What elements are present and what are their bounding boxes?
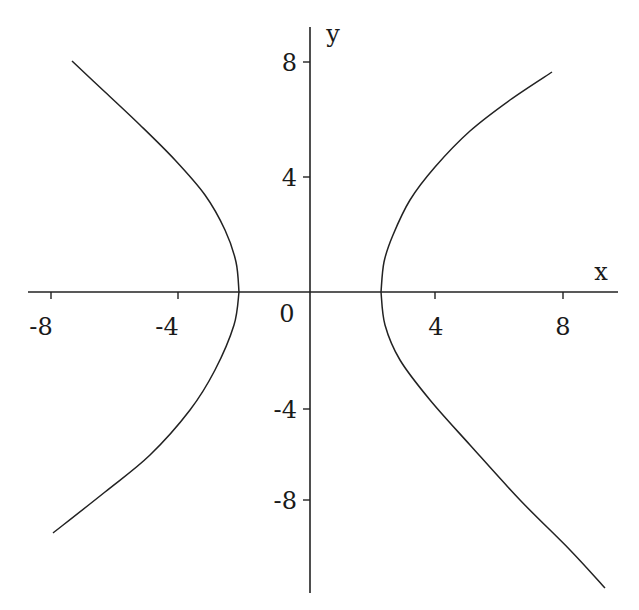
x-tick-label: 8: [555, 313, 570, 341]
x-axis-label: x: [594, 258, 608, 286]
y-axis-label: y: [325, 20, 340, 48]
y-tick-label: -4: [274, 396, 297, 424]
hyperbola-plot: -8 -4 0 4 8 8 4 -4 -8 x y: [0, 0, 639, 610]
x-tick-label: -8: [29, 313, 52, 341]
left-branch-upper: [72, 61, 239, 292]
x-ticks: [51, 292, 563, 299]
right-branch-lower: [381, 292, 605, 588]
x-tick-label: -4: [155, 313, 178, 341]
origin-label: 0: [279, 300, 294, 328]
y-tick-label: -8: [274, 487, 297, 515]
left-branch-lower: [53, 292, 239, 533]
y-tick-label: 8: [282, 49, 297, 77]
x-tick-label: 4: [428, 313, 443, 341]
chart-container: -8 -4 0 4 8 8 4 -4 -8 x y: [0, 0, 639, 610]
y-ticks: [303, 62, 310, 500]
right-branch-upper: [381, 72, 552, 292]
y-tick-label: 4: [282, 164, 297, 192]
